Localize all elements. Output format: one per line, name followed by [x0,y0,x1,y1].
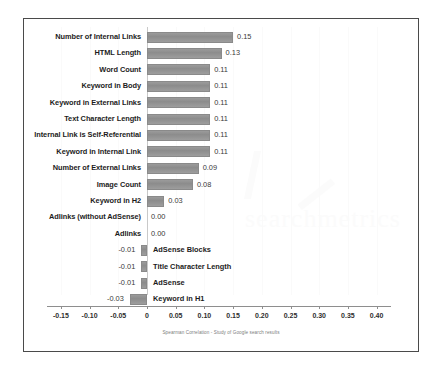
bar [147,130,210,141]
bar [141,245,147,256]
plot-area: Number of Internal Links0.15HTML Length0… [24,19,418,351]
value-label: 0.15 [237,29,251,45]
bar-row: Adlinks0.00 [24,226,418,242]
category-label: Adlinks (without AdSense) [49,209,141,225]
axis-caption: Spearman Correlation - Study of Google s… [24,330,418,335]
value-label: 0.11 [214,127,228,143]
category-label: Text Character Length [64,111,141,127]
value-label: -0.01 [118,242,135,258]
value-label: -0.01 [118,259,135,275]
bar [147,196,164,207]
bar [147,146,210,157]
value-label: 0.00 [151,209,165,225]
bar-row: Keyword in Body0.11 [24,78,418,94]
value-label: 0.11 [214,62,228,78]
x-axis-tick [291,306,292,309]
category-label: Word Count [99,62,141,78]
category-label: AdSense [153,275,185,291]
x-axis-tick [348,306,349,309]
x-axis-tick [204,306,205,309]
value-label: 0.13 [226,45,240,61]
bar [147,48,222,59]
bar-row: Number of Internal Links0.15 [24,29,418,45]
bar-row: Keyword in H20.03 [24,193,418,209]
bar [141,261,147,272]
category-label: Title Character Length [153,259,231,275]
bar-row: Number of External Links0.09 [24,160,418,176]
x-axis-tick [233,306,234,309]
chart-frame: searchmetrics Number of Internal Links0.… [23,18,419,352]
bar-row: HTML Length0.13 [24,45,418,61]
category-label: Keyword in External Links [50,95,141,111]
bar-row: Keyword in Internal Link0.11 [24,144,418,160]
x-axis-tick [319,306,320,309]
bar-row: Text Character Length0.11 [24,111,418,127]
bar-row: -0.01AdSense [24,275,418,291]
category-label: Adlinks [115,226,141,242]
bar [147,81,210,92]
category-label: Internal Link is Self-Referential [34,127,141,143]
bar-row: Internal Link is Self-Referential0.11 [24,127,418,143]
value-label: -0.01 [118,275,135,291]
category-label: Keyword in Body [81,78,141,94]
value-label: -0.03 [107,291,124,307]
bar-row: Adlinks (without AdSense)0.00 [24,209,418,225]
bar [147,97,210,108]
x-axis-line [47,306,391,307]
bar-row: -0.01Title Character Length [24,259,418,275]
value-label: 0.11 [214,78,228,94]
x-axis-tick [90,306,91,309]
value-label: 0.09 [203,160,217,176]
x-axis-tick [262,306,263,309]
x-axis-tick-label: 0.40 [357,312,397,319]
bar-row: Word Count0.11 [24,62,418,78]
x-axis-tick [147,306,148,309]
category-label: Number of Internal Links [55,29,141,45]
category-label: AdSense Blocks [153,242,211,258]
bar-row: -0.03Keyword in H1 [24,291,418,307]
bar [130,294,147,305]
category-label: Image Count [97,177,141,193]
bar [147,179,193,190]
bar [147,64,210,75]
bar-row: Keyword in External Links0.11 [24,95,418,111]
category-label: Keyword in H2 [90,193,141,209]
x-axis-tick [118,306,119,309]
value-label: 0.11 [214,111,228,127]
bar [147,114,210,125]
x-axis-tick [176,306,177,309]
x-axis-tick [61,306,62,309]
value-label: 0.03 [168,193,182,209]
category-label: Keyword in H1 [153,291,204,307]
value-label: 0.11 [214,144,228,160]
x-axis-tick [377,306,378,309]
category-label: HTML Length [94,45,141,61]
value-label: 0.08 [197,177,211,193]
value-label: 0.00 [151,226,165,242]
bar [141,278,147,289]
category-label: Keyword in Internal Link [56,144,141,160]
category-label: Number of External Links [53,160,141,176]
bar-row: Image Count0.08 [24,177,418,193]
value-label: 0.11 [214,95,228,111]
bar [147,32,233,43]
bar-row: -0.01AdSense Blocks [24,242,418,258]
bar [147,163,199,174]
